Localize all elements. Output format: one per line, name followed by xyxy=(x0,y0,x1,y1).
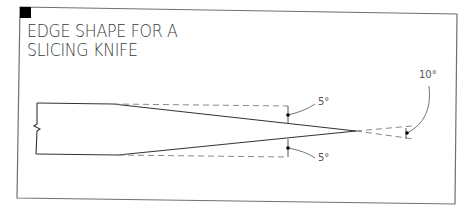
leader-lines xyxy=(288,86,430,158)
included-angle-label: 10° xyxy=(419,70,437,80)
tip-angle-dot xyxy=(405,131,409,135)
figure-title-line-1: EDGE SHAPE FOR A xyxy=(27,22,178,41)
lower-bevel-angle-label: 5° xyxy=(318,153,329,163)
upper-extension-dashed xyxy=(356,126,412,131)
lower-extension-dashed xyxy=(356,131,414,139)
upper-bevel-angle-label: 5° xyxy=(318,97,329,107)
blade-bottom-edge xyxy=(36,131,356,155)
upper-5deg-leader xyxy=(288,104,315,115)
blade-top-edge xyxy=(37,103,356,131)
lower-reference-dashed xyxy=(118,155,288,157)
lower-angle-dot xyxy=(286,146,290,150)
blade-outline xyxy=(34,103,356,155)
diagram-stage: EDGE SHAPE FOR A SLICING KNIFE 5° 5° 10° xyxy=(0,0,474,208)
figure-title-line-2: SLICING KNIFE xyxy=(27,41,178,60)
blade-break-line xyxy=(34,103,40,154)
upper-reference-dashed xyxy=(113,104,288,106)
lower-5deg-leader xyxy=(288,148,315,158)
reference-lines xyxy=(113,104,414,157)
corner-marker xyxy=(20,7,31,18)
upper-angle-dot xyxy=(286,113,290,117)
figure-title: EDGE SHAPE FOR A SLICING KNIFE xyxy=(27,22,178,60)
